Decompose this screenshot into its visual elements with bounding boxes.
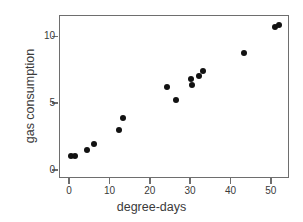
- data-point: [84, 147, 90, 153]
- x-tick-label: 50: [251, 186, 291, 196]
- data-point: [196, 73, 202, 79]
- x-tick-mark: [149, 178, 151, 184]
- x-tick-mark: [189, 178, 191, 184]
- x-tick-mark: [68, 178, 70, 184]
- data-point: [276, 22, 282, 28]
- y-tick-label: 5: [49, 98, 55, 108]
- data-point: [241, 50, 247, 56]
- plot-frame: [59, 15, 289, 178]
- data-point-layer: [60, 16, 288, 177]
- y-axis-title: gas consumption: [23, 15, 37, 178]
- y-tick-label: 0: [49, 165, 55, 175]
- x-tick-label: 20: [130, 186, 170, 196]
- x-tick-label: 0: [49, 186, 89, 196]
- data-point: [164, 84, 170, 90]
- data-point: [189, 82, 195, 88]
- y-tick-label: 10: [44, 31, 55, 41]
- x-tick-label: 30: [170, 186, 210, 196]
- scatter-plot-figure: gas consumption degree-days 051001020304…: [0, 0, 303, 222]
- data-point: [120, 115, 126, 121]
- x-axis-title: degree-days: [0, 200, 303, 214]
- data-point: [72, 153, 78, 159]
- data-point: [91, 141, 97, 147]
- data-point: [200, 68, 206, 74]
- data-point: [173, 97, 179, 103]
- x-tick-mark: [270, 178, 272, 184]
- x-tick-label: 10: [89, 186, 129, 196]
- x-tick-mark: [109, 178, 111, 184]
- x-tick-label: 40: [210, 186, 250, 196]
- x-tick-mark: [230, 178, 232, 184]
- data-point: [116, 127, 122, 133]
